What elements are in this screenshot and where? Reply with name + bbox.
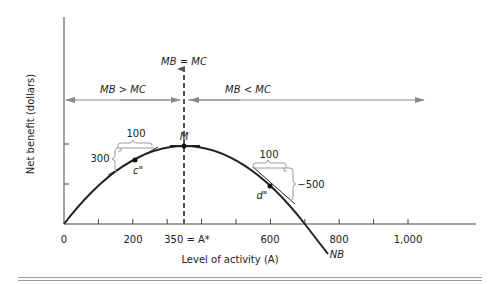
x-ticks [98,219,408,224]
bottom-rule-1 [18,277,482,278]
optimum-label: MB = MC [161,56,207,67]
c-run-label: 100 [126,128,145,139]
x-tick-600: 600 [260,234,279,245]
left-region-label: MB > MC [100,84,146,95]
point-m [182,144,187,149]
d-run-label: 100 [259,149,278,160]
x-tick-1000: 1,000 [394,234,423,245]
d-rise-label: −500 [297,179,324,190]
c-point-label: c" [133,165,143,176]
x-tick-200: 200 [123,234,142,245]
point-c [133,158,138,163]
x-tick-350-astar: 350 = A* [164,234,210,245]
point-d [268,184,273,189]
x-tick-800: 800 [329,234,348,245]
d-point-label: d" [257,190,268,201]
peak-label: M [180,131,189,142]
y-ticks [64,144,69,184]
right-region-label: MB < MC [225,84,271,95]
y-axis-title: Net benefit (dollars) [25,74,36,174]
x-tick-0: 0 [61,234,67,245]
x-axis-title: Level of activity (A) [181,254,278,265]
bottom-rule-2 [18,280,482,281]
c-rise-label: 300 [90,153,109,164]
net-benefit-chart: 0 200 350 = A* 600 800 1,000 Level of ac… [0,0,498,284]
nb-curve-label: NB [330,249,344,260]
